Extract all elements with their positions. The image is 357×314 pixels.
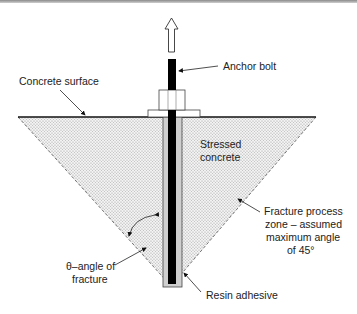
label-fracture-zone-1: Fracture process [264,205,343,217]
label-stressed-concrete-2: concrete [200,151,240,163]
label-fracture-zone-2: zone – assumed [265,218,342,230]
anchor-bolt-shaft [168,110,176,284]
anchor-bolt-top [168,59,176,90]
label-fracture-zone-4: of 45° [287,244,315,256]
label-theta-2: fracture [72,273,108,285]
label-resin-adhesive: Resin adhesive [206,289,278,301]
label-fracture-zone-3: maximum angle [266,231,340,243]
label-theta-1: θ–angle of [66,260,115,272]
label-stressed-concrete-1: Stressed [200,138,242,150]
tension-load-arrow-icon [165,18,178,52]
anchor-diagram: Anchor bolt Concrete surface Stressed co… [0,0,357,314]
label-anchor-bolt: Anchor bolt [223,60,276,72]
nut [159,90,185,110]
label-concrete-surface: Concrete surface [19,75,99,87]
